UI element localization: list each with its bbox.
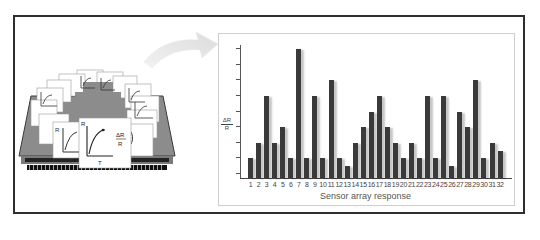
svg-text:R: R	[118, 141, 123, 147]
bar-sensor-6	[288, 158, 293, 178]
bar-sensor-1	[248, 158, 253, 178]
y-tick	[236, 111, 240, 112]
bar-sensor-2	[256, 143, 261, 178]
svg-text:T: T	[98, 160, 102, 166]
y-tick	[236, 126, 240, 127]
y-tick	[236, 79, 240, 80]
bar-sensor-28	[465, 127, 470, 178]
bar-sensor-8	[304, 158, 309, 178]
bar-sensor-19	[393, 143, 398, 178]
x-axis	[240, 178, 512, 179]
bar-sensor-32	[498, 151, 503, 178]
y-label-numerator: ΔR	[221, 117, 233, 125]
svg-text:ΔR: ΔR	[116, 132, 125, 138]
y-tick	[236, 173, 240, 174]
bar-sensor-9	[312, 96, 317, 178]
bar-sensor-30	[481, 158, 486, 178]
bar-sensor-27	[457, 112, 462, 178]
bar-sensor-7	[296, 49, 301, 178]
bar-sensor-24	[433, 158, 438, 178]
x-axis-title: Sensor array response	[320, 191, 411, 201]
bar-sensor-13	[345, 166, 350, 178]
svg-text:R: R	[81, 121, 86, 127]
svg-text:T: T	[69, 158, 73, 164]
bar-sensor-26	[449, 166, 454, 178]
card-r-label: R	[55, 127, 60, 133]
y-tick	[236, 64, 240, 65]
bar-sensor-22	[417, 158, 422, 178]
bar-sensor-12	[337, 158, 342, 178]
y-label-denominator: R	[225, 125, 229, 131]
bar-sensor-15	[361, 127, 366, 178]
bar-sensor-11	[329, 80, 334, 178]
bar-sensor-4	[272, 143, 277, 178]
bar-sensor-20	[401, 158, 406, 178]
x-tick-label: 32	[495, 181, 505, 188]
bar-sensor-14	[353, 143, 358, 178]
bar-sensor-18	[385, 127, 390, 178]
bar-sensor-29	[473, 80, 478, 178]
bar-sensor-25	[441, 96, 446, 178]
y-axis-label: ΔR R	[221, 117, 233, 132]
y-tick	[236, 157, 240, 158]
y-tick	[236, 142, 240, 143]
sensor-array-chip-illustration: R T R T ΔR R	[17, 62, 177, 174]
y-axis	[240, 45, 241, 178]
curved-arrow-icon	[140, 28, 220, 73]
bar-sensor-5	[280, 127, 285, 178]
y-tick	[236, 48, 240, 49]
bar-sensor-3	[264, 96, 269, 178]
bar-sensor-10	[320, 158, 325, 178]
bar-sensor-16	[369, 112, 374, 178]
bar-sensor-21	[409, 143, 414, 178]
bar-sensor-31	[490, 143, 495, 178]
y-tick	[236, 95, 240, 96]
bar-sensor-23	[425, 96, 430, 178]
bar-sensor-17	[377, 96, 382, 178]
